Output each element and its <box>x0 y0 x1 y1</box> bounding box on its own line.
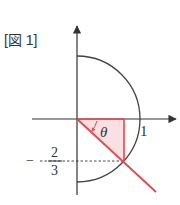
figure-title: [図 1] <box>4 32 37 48</box>
theta-label: θ <box>100 124 108 140</box>
fraction-numerator: 2 <box>51 145 58 160</box>
unit-circle-diagram: [図 1] θ 1 − 2 3 <box>0 0 180 205</box>
fraction-denominator: 3 <box>51 163 58 178</box>
one-label: 1 <box>140 123 148 139</box>
negative-sign: − <box>26 153 34 168</box>
